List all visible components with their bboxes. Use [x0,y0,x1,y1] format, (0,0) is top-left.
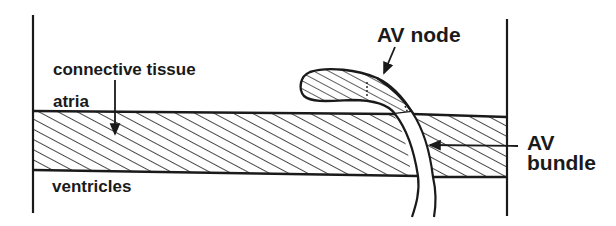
label-av-bundle-line2: bundle [527,151,596,174]
av-node-arrow [384,47,395,73]
label-ventricles: ventricles [52,177,131,196]
label-connective-tissue: connective tissue [53,60,196,79]
connective-tissue-band-left [33,111,411,175]
label-atria: atria [53,92,89,111]
av-conduction-diagram: connective tissue atria ventricles AV no… [0,0,616,226]
av-bundle-arrow [430,145,518,146]
label-av-node: AV node [377,23,461,46]
